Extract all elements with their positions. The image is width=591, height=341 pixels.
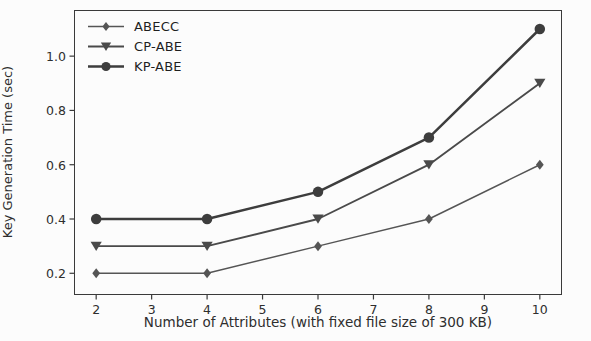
y-tick-label: 0.8 (20, 103, 66, 118)
x-axis-title: Number of Attributes (with fixed file si… (74, 314, 562, 330)
y-tick-label: 1.0 (20, 49, 66, 64)
legend-marker-diamond-icon (86, 18, 126, 35)
legend-item-kp-abe: KP-ABE (86, 58, 182, 75)
chart-legend: ABECCCP-ABEKP-ABE (86, 18, 182, 75)
legend-marker-triangle-down-icon (86, 38, 126, 55)
legend-label: KP-ABE (134, 59, 182, 74)
legend-label: ABECC (134, 19, 179, 34)
legend-item-abecc: ABECC (86, 18, 182, 35)
chart-figure: 0.20.40.60.81.0 2345678910 Key Generatio… (0, 0, 591, 341)
y-tick-label: 0.4 (20, 212, 66, 227)
legend-marker-circle-icon (86, 58, 126, 75)
legend-item-cp-abe: CP-ABE (86, 38, 182, 55)
y-tick-label: 0.2 (20, 266, 66, 281)
y-tick-label: 0.6 (20, 157, 66, 172)
legend-label: CP-ABE (134, 39, 182, 54)
y-axis-title: Key Generation Time (sec) (0, 66, 15, 238)
